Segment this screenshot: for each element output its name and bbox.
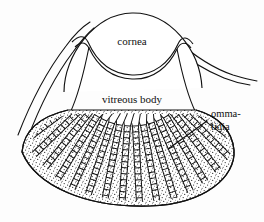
label-ommatidia-line1: omma- — [211, 108, 241, 119]
label-vitreous-body: vitreous body — [102, 93, 163, 105]
compound-eye-diagram: cornea vitreous body omma- tidia — [0, 0, 264, 222]
label-cornea: cornea — [117, 35, 146, 47]
cornea-dome-outline — [64, 13, 202, 92]
label-ommatidia-line2: tidia — [211, 121, 230, 132]
diagram-canvas: cornea vitreous body omma- tidia — [0, 0, 264, 222]
